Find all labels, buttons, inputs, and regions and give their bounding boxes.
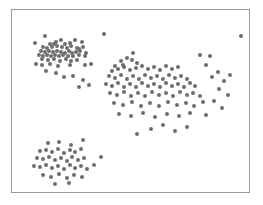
data-point [49, 175, 53, 179]
data-point [129, 114, 133, 118]
data-point [176, 82, 180, 86]
data-point [41, 157, 45, 161]
data-point [166, 100, 170, 104]
data-point [204, 113, 208, 117]
data-point [164, 64, 168, 68]
data-point [228, 73, 232, 77]
data-point [110, 84, 114, 88]
data-point [68, 63, 72, 67]
data-point [176, 65, 180, 69]
data-point [44, 69, 48, 73]
data-point [184, 101, 188, 105]
data-point [130, 58, 134, 62]
data-point [79, 164, 83, 168]
data-point [136, 91, 140, 95]
data-point [216, 70, 220, 74]
data-point [117, 112, 121, 116]
data-point [73, 166, 77, 170]
data-point [164, 91, 168, 95]
data-point [53, 182, 57, 186]
data-point [188, 111, 192, 115]
data-point [62, 151, 66, 155]
data-point [131, 51, 135, 55]
data-point [64, 57, 68, 61]
data-point [89, 62, 93, 66]
data-point [161, 123, 165, 127]
data-point [72, 173, 76, 177]
data-point [71, 54, 75, 58]
data-point [198, 94, 202, 98]
data-point [85, 167, 89, 171]
data-point [188, 81, 192, 85]
data-point [125, 56, 129, 60]
data-point [178, 90, 182, 94]
data-point [125, 77, 129, 81]
data-point [226, 93, 230, 97]
data-point [143, 73, 147, 77]
data-point [34, 62, 38, 66]
data-point [140, 81, 144, 85]
data-point [47, 155, 51, 159]
data-point [76, 158, 80, 162]
data-point [220, 106, 224, 110]
data-point [122, 85, 126, 89]
data-point [68, 163, 72, 167]
data-point [112, 101, 116, 105]
data-point [56, 164, 60, 168]
data-point [201, 100, 205, 104]
data-point [116, 67, 120, 71]
data-point [62, 75, 66, 79]
data-point [81, 45, 85, 49]
data-point [115, 93, 119, 97]
data-point [210, 75, 214, 79]
data-point [87, 83, 91, 87]
data-point [177, 114, 181, 118]
data-point [40, 57, 44, 61]
data-point [80, 40, 84, 44]
data-point [175, 103, 179, 107]
data-point [79, 147, 83, 151]
data-point [35, 156, 39, 160]
plot-area [12, 10, 249, 192]
data-point [134, 85, 138, 89]
data-point [148, 101, 152, 105]
data-point [67, 181, 71, 185]
data-point [212, 99, 216, 103]
data-point [60, 45, 64, 49]
data-point [185, 93, 189, 97]
data-point [70, 155, 74, 159]
data-point [171, 94, 175, 98]
data-point [80, 175, 84, 179]
data-point [222, 79, 226, 83]
data-point [141, 111, 145, 115]
data-point [131, 74, 135, 78]
data-point [173, 76, 177, 80]
data-point [139, 104, 143, 108]
data-point [167, 73, 171, 77]
data-point [198, 53, 202, 57]
data-point [108, 91, 112, 95]
data-point [164, 81, 168, 85]
data-point [192, 104, 196, 108]
data-point [46, 141, 50, 145]
data-point [50, 166, 54, 170]
data-point [208, 54, 212, 58]
data-point [155, 74, 159, 78]
data-point [65, 176, 69, 180]
data-point [44, 163, 48, 167]
data-point [157, 93, 161, 97]
data-point [69, 44, 73, 48]
data-point [135, 61, 139, 65]
data-point [33, 41, 37, 45]
data-point [59, 156, 63, 160]
data-point [191, 91, 195, 95]
data-point [59, 38, 63, 42]
data-point [165, 112, 169, 116]
data-point [134, 66, 138, 70]
data-point [146, 67, 150, 71]
data-point [48, 62, 52, 66]
data-point [99, 155, 103, 159]
data-point [38, 149, 42, 153]
data-point [73, 150, 77, 154]
data-point [57, 172, 61, 176]
